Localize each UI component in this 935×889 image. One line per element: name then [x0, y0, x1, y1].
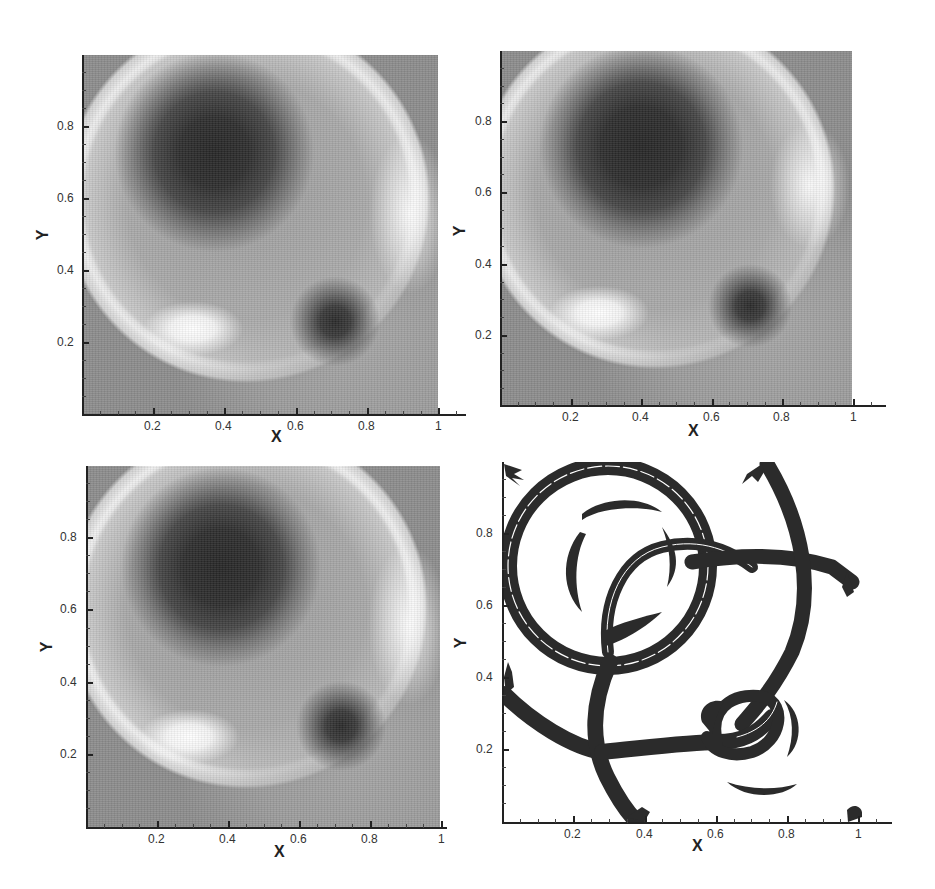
- x-minor-tick: [694, 402, 695, 406]
- x-minor-tick: [520, 819, 521, 823]
- y-minor-tick: [502, 569, 506, 570]
- x-tick: [441, 821, 443, 828]
- y-minor-tick: [500, 139, 504, 140]
- x-tick: [296, 408, 298, 415]
- y-minor-tick: [82, 162, 86, 163]
- x-minor-tick: [242, 411, 243, 415]
- y-minor-tick: [82, 234, 86, 235]
- x-minor-tick: [193, 824, 194, 828]
- y-tick: [500, 264, 507, 266]
- x-tick-label: 0.4: [215, 419, 232, 433]
- y-tick-label: 0.4: [57, 263, 74, 277]
- x-minor-tick: [139, 824, 140, 828]
- x-tick: [157, 821, 159, 828]
- y-minor-tick: [82, 180, 86, 181]
- y-tick-label: 0.4: [60, 675, 77, 689]
- y-minor-tick: [502, 803, 506, 804]
- y-tick-label: 0.8: [475, 114, 492, 128]
- x-tick: [782, 399, 784, 406]
- x-minor-tick: [747, 402, 748, 406]
- y-minor-tick: [500, 299, 504, 300]
- x-tick-label: 0.8: [361, 832, 378, 846]
- x-minor-tick: [118, 411, 119, 415]
- x-axis-line: [502, 822, 892, 824]
- x-minor-tick: [835, 402, 836, 406]
- y-minor-tick: [500, 370, 504, 371]
- y-minor-tick: [86, 700, 90, 701]
- y-axis-title: Y: [38, 642, 56, 653]
- x-minor-tick: [800, 402, 801, 406]
- x-minor-tick: [591, 819, 592, 823]
- y-minor-tick: [86, 736, 90, 737]
- x-tick-label: 0.2: [144, 419, 161, 433]
- y-minor-tick: [500, 157, 504, 158]
- x-minor-tick: [553, 402, 554, 406]
- y-minor-tick: [502, 713, 506, 714]
- x-minor-tick: [805, 819, 806, 823]
- x-minor-tick: [210, 824, 211, 828]
- y-tick-label: 0.6: [60, 602, 77, 616]
- x-minor-tick: [175, 824, 176, 828]
- y-minor-tick: [502, 731, 506, 732]
- x-tick-label: 0.2: [562, 410, 579, 424]
- y-tick-label: 0.8: [60, 530, 77, 544]
- x-minor-tick: [588, 402, 589, 406]
- x-tick: [641, 399, 643, 406]
- y-tick-label: 0.6: [57, 191, 74, 205]
- panel-top-left: 0.8 0.6 0.4 0.2 0.2 0.4 0.6 0.8 1 X Y: [0, 0, 470, 440]
- y-axis-line: [86, 466, 88, 828]
- x-minor-tick: [609, 819, 610, 823]
- y-minor-tick: [502, 695, 506, 696]
- y-minor-tick: [86, 591, 90, 592]
- x-minor-tick: [555, 819, 556, 823]
- y-tick: [500, 192, 507, 194]
- x-minor-tick: [456, 411, 457, 415]
- y-minor-tick: [500, 174, 504, 175]
- y-axis-line: [82, 55, 84, 416]
- y-minor-tick: [82, 72, 86, 73]
- y-tick: [86, 609, 93, 611]
- x-minor-tick: [246, 824, 247, 828]
- x-minor-tick: [104, 824, 105, 828]
- x-tick-label: 1: [435, 419, 442, 433]
- x-minor-tick: [734, 819, 735, 823]
- y-minor-tick: [502, 623, 506, 624]
- x-tick-label: 0.4: [636, 827, 653, 841]
- y-tick: [86, 682, 93, 684]
- x-minor-tick: [281, 824, 282, 828]
- y-tick-label: 0.6: [475, 185, 492, 199]
- y-minor-tick: [82, 378, 86, 379]
- y-axis-line: [502, 462, 504, 824]
- x-tick-label: 1: [438, 832, 445, 846]
- density-plot-top-right: [501, 51, 852, 405]
- x-minor-tick: [421, 411, 422, 415]
- x-minor-tick: [385, 411, 386, 415]
- x-tick-label: 0.2: [564, 827, 581, 841]
- y-minor-tick: [500, 68, 504, 69]
- y-minor-tick: [82, 90, 86, 91]
- x-minor-tick: [189, 411, 190, 415]
- y-tick-label: 0.2: [476, 742, 493, 756]
- y-tick-label: 0.6: [476, 598, 493, 612]
- x-axis-title: X: [274, 843, 285, 861]
- y-minor-tick: [502, 515, 506, 516]
- y-minor-tick: [500, 246, 504, 247]
- x-tick-label: 0.4: [632, 410, 649, 424]
- x-minor-tick: [676, 402, 677, 406]
- x-tick-label: 1: [855, 827, 862, 841]
- x-tick-label: 0.6: [703, 410, 720, 424]
- y-tick: [502, 533, 509, 535]
- x-minor-tick: [876, 819, 877, 823]
- y-tick-label: 0.8: [57, 119, 74, 133]
- x-tick-label: 0.8: [358, 419, 375, 433]
- x-tick-label: 0.8: [778, 827, 795, 841]
- x-minor-tick: [659, 402, 660, 406]
- y-tick: [502, 677, 509, 679]
- y-minor-tick: [502, 785, 506, 786]
- x-minor-tick: [624, 402, 625, 406]
- y-minor-tick: [500, 388, 504, 389]
- x-minor-tick: [662, 819, 663, 823]
- y-tick-label: 0.4: [475, 257, 492, 271]
- x-minor-tick: [388, 824, 389, 828]
- x-minor-tick: [538, 819, 539, 823]
